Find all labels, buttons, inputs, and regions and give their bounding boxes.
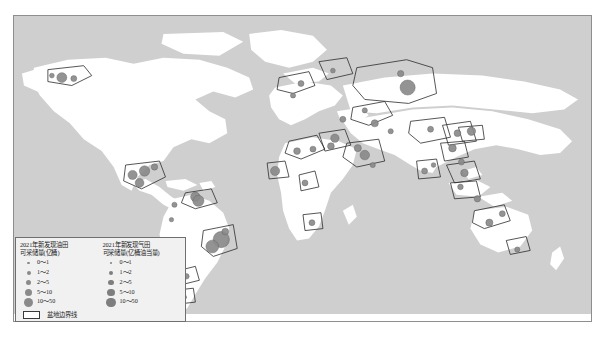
discovery-dot [328, 143, 335, 150]
legend-class-label: 5～10 [120, 288, 135, 298]
map-page: 2021年新发现油田 可采储量(亿桶) 0～11～22～55～1010～50 2… [0, 0, 605, 338]
legend-class-row: 2～5 [103, 278, 186, 288]
discovery-dot [458, 184, 464, 190]
legend-dot-icon [25, 289, 32, 296]
legend-dot-icon [109, 271, 113, 275]
discovery-dot [206, 240, 219, 253]
legend-column-gas: 2021年新发现气田 可采储量(亿桶油当量) 0～11～22～55～1010～5… [101, 241, 186, 307]
legend-dot-icon [26, 280, 32, 286]
legend-class-label: 0～1 [120, 258, 132, 268]
discovery-dot [331, 68, 336, 73]
legend-class-row: 0～1 [103, 258, 186, 268]
legend-class-label: 10～50 [120, 297, 138, 307]
discovery-dot [135, 179, 144, 188]
legend-dot-cell [20, 262, 37, 265]
legend-class-row: 10～50 [20, 297, 101, 307]
discovery-dot [388, 129, 393, 134]
discovery-dot [310, 146, 316, 152]
discovery-dot [461, 169, 469, 177]
legend-dot-icon [106, 298, 115, 307]
discovery-dot [400, 80, 415, 95]
discovery-dot [128, 170, 137, 179]
legend-class-label: 5～10 [37, 288, 52, 298]
legend-dot-icon [27, 271, 31, 275]
legend-column-oil: 2021年新发现油田 可采储量(亿桶) 0～11～22～55～1010～50 [16, 241, 101, 307]
discovery-dot [331, 134, 339, 142]
discovery-dot [354, 145, 361, 152]
discovery-dot [362, 108, 367, 113]
legend-dot-cell [20, 280, 37, 286]
legend-dot-cell [103, 262, 120, 265]
legend-class-label: 2～5 [120, 278, 132, 288]
discovery-dot [422, 168, 428, 174]
legend-oil-title-line2: 可采储量(亿桶) [20, 249, 101, 257]
legend-class-row: 5～10 [103, 288, 186, 298]
legend-dot-cell [20, 271, 37, 275]
discovery-dot [499, 211, 505, 217]
legend-class-label: 2～5 [37, 278, 49, 288]
legend-class-row: 1～2 [20, 268, 101, 278]
legend-class-label: 10～50 [37, 297, 55, 307]
legend-dot-icon [110, 262, 113, 265]
legend-dot-cell [103, 280, 120, 286]
legend-dot-cell [20, 289, 37, 296]
discovery-dot [360, 150, 370, 160]
legend-dot-icon [24, 298, 33, 307]
discovery-dot [302, 180, 308, 186]
discovery-dot [309, 220, 315, 226]
discovery-dot [449, 144, 457, 152]
legend-class-label: 1～2 [120, 268, 132, 278]
legend-class-row: 5～10 [20, 288, 101, 298]
discovery-dot [458, 159, 464, 165]
discovery-dot [371, 120, 378, 127]
discovery-dot [290, 93, 295, 98]
discovery-dot [71, 76, 77, 82]
discovery-dot [271, 166, 280, 175]
discovery-dot [49, 73, 54, 78]
legend-dot-cell [20, 298, 37, 307]
discovery-dot [467, 127, 475, 135]
legend-gas-title-line1: 2021年新发现气田 [103, 241, 186, 249]
legend-dot-icon [27, 262, 30, 265]
legend-class-row: 10～50 [103, 297, 186, 307]
discovery-dot [169, 217, 173, 221]
legend-dot-icon [108, 280, 114, 286]
discovery-dot [139, 166, 149, 176]
legend-oil-title-line1: 2021年新发现油田 [20, 241, 101, 249]
basin-boundary-label: 盆地边界线 [47, 310, 77, 319]
legend-class-row: 1～2 [103, 268, 186, 278]
legend-class-row: 0～1 [20, 258, 101, 268]
discovery-dot [428, 126, 434, 132]
legend-gas-items: 0～11～22～55～1010～50 [103, 258, 186, 307]
legend-oil-items: 0～11～22～55～1010～50 [20, 258, 101, 307]
discovery-dot [222, 228, 229, 235]
discovery-dot [515, 247, 520, 252]
legend-gas-title-line2: 可采储量(亿桶油当量) [103, 249, 186, 257]
discovery-dot [397, 70, 403, 76]
legend-class-label: 0～1 [37, 258, 49, 268]
legend-dot-cell [103, 298, 120, 307]
discovery-dot [294, 148, 301, 155]
discovery-dot [474, 196, 480, 202]
legend-dot-cell [103, 271, 120, 275]
discovery-dot [57, 73, 67, 83]
discovery-dot [172, 202, 177, 207]
discovery-dot [370, 162, 375, 167]
legend-class-row: 2～5 [20, 278, 101, 288]
basin-boundary-swatch [23, 311, 40, 319]
legend-dot-cell [103, 289, 120, 296]
map-legend: 2021年新发现油田 可采储量(亿桶) 0～11～22～55～1010～50 2… [15, 237, 186, 322]
discovery-dot [193, 195, 204, 206]
legend-dot-icon [107, 289, 114, 296]
discovery-dot [340, 116, 346, 122]
discovery-dot [298, 81, 304, 87]
discovery-dot [431, 163, 436, 168]
discovery-dot [454, 130, 461, 137]
discovery-dot [151, 164, 157, 170]
legend-basin-boundary-row: 盆地边界线 [16, 310, 185, 319]
legend-class-label: 1～2 [37, 268, 49, 278]
discovery-dot [486, 219, 493, 226]
